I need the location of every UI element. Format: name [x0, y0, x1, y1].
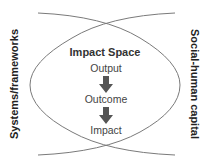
systems-frameworks-label: Systems/frameworks — [8, 29, 20, 139]
down-arrow-icon — [99, 76, 113, 93]
social-human-capital-label: Social-human capital — [189, 29, 201, 139]
step-impact: Impact — [90, 124, 122, 136]
step-outcome: Outcome — [85, 93, 128, 105]
down-arrow-icon — [99, 107, 113, 124]
step-output: Output — [90, 62, 122, 74]
impact-space-title: Impact Space — [70, 46, 141, 58]
